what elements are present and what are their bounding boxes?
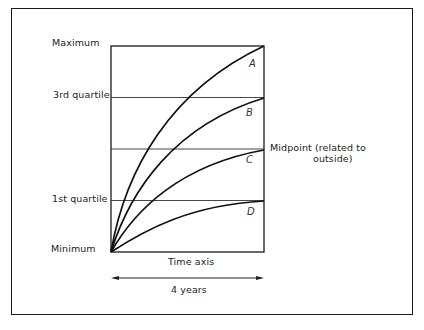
arrow-right-head-icon xyxy=(256,276,264,280)
label-midpoint-line2: outside) xyxy=(313,153,353,164)
curve-label-c: C xyxy=(246,154,253,165)
curve-label-b: B xyxy=(246,107,253,118)
curve-d xyxy=(111,201,264,252)
label-minimum: Minimum xyxy=(51,243,96,254)
curve-c xyxy=(111,150,264,252)
arrow-left-head-icon xyxy=(111,276,119,280)
label-duration: 4 years xyxy=(171,284,207,295)
label-midpoint-line1: Midpoint (related to xyxy=(270,142,366,153)
label-time-axis: Time axis xyxy=(168,256,214,267)
diagram-canvas xyxy=(0,0,424,330)
label-maximum: Maximum xyxy=(52,37,100,48)
curve-label-a: A xyxy=(249,58,256,69)
curve-label-d: D xyxy=(247,206,255,217)
label-first-quartile: 1st quartile xyxy=(52,193,108,204)
label-third-quartile: 3rd quartile xyxy=(53,89,110,100)
